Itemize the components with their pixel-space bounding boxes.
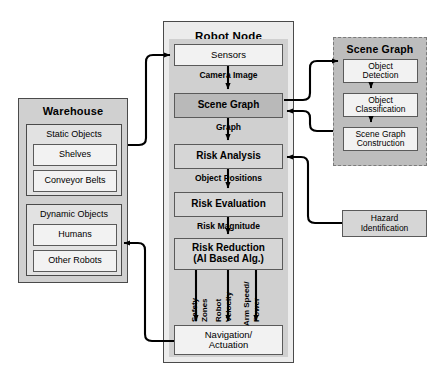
node-navigation-actuation: Navigation/ Actuation bbox=[174, 325, 283, 355]
output-label-robot-velocity-line2: Velocity bbox=[224, 292, 233, 322]
node-scene-graph-construction-label-line2: Construction bbox=[357, 139, 405, 148]
node-scene-graph-label: Scene Graph bbox=[198, 100, 260, 111]
node-scene-graph: Scene Graph bbox=[174, 93, 283, 118]
node-object-detection-label-line2: Detection bbox=[363, 71, 399, 80]
node-risk-evaluation-label: Risk Evaluation bbox=[191, 199, 265, 210]
node-risk-reduction: Risk Reduction (AI Based Alg.) bbox=[174, 238, 283, 270]
output-label-arm-speed-line1: Arm Speed/ bbox=[242, 282, 251, 326]
node-navigation-actuation-label-line2: Actuation bbox=[209, 340, 249, 350]
warehouse-title: Warehouse bbox=[19, 105, 127, 117]
output-label-arm-speed-line2: Power bbox=[252, 298, 261, 322]
output-label-robot-velocity-line1: Robot bbox=[214, 299, 223, 322]
warehouse-item-other-robots: Other Robots bbox=[33, 250, 117, 272]
node-object-classification: Object Classification bbox=[343, 93, 418, 117]
warehouse-item-other-robots-label: Other Robots bbox=[48, 256, 102, 266]
node-object-detection: Object Detection bbox=[343, 59, 418, 83]
node-risk-reduction-label-line2: (AI Based Alg.) bbox=[193, 254, 264, 265]
output-label-safety-zones-line1: Safety bbox=[190, 298, 199, 322]
node-hazard-identification-label-line2: Identification bbox=[361, 224, 409, 233]
warehouse-item-conveyor-belts-label: Conveyor Belts bbox=[44, 176, 105, 186]
node-object-classification-label-line2: Classification bbox=[355, 105, 405, 114]
node-hazard-identification: Hazard Identification bbox=[342, 210, 427, 237]
output-label-safety-zones-line2: Zones bbox=[200, 298, 209, 322]
warehouse-item-shelves: Shelves bbox=[33, 144, 117, 166]
warehouse-panel: Warehouse Static Objects Shelves Conveyo… bbox=[18, 98, 128, 283]
edge-label-graph: Graph bbox=[174, 122, 283, 132]
warehouse-item-humans: Humans bbox=[33, 224, 117, 246]
wire-hazard-to-risk-analysis bbox=[287, 157, 342, 223]
warehouse-group-static: Static Objects Shelves Conveyor Belts bbox=[26, 124, 122, 196]
node-risk-evaluation: Risk Evaluation bbox=[174, 192, 283, 217]
warehouse-group-static-header: Static Objects bbox=[27, 129, 121, 139]
edge-label-risk-magnitude: Risk Magnitude bbox=[169, 221, 288, 231]
node-scene-graph-construction: Scene Graph Construction bbox=[343, 127, 418, 151]
warehouse-item-conveyor-belts: Conveyor Belts bbox=[33, 170, 117, 192]
scene-graph-subsystem-panel: Scene Graph Object Detection Object Clas… bbox=[333, 37, 427, 166]
warehouse-group-dynamic-header: Dynamic Objects bbox=[27, 209, 121, 219]
edge-label-object-positions: Object Positions bbox=[169, 173, 288, 183]
node-risk-analysis: Risk Analysis bbox=[174, 144, 283, 169]
diagram-canvas: Warehouse Static Objects Shelves Conveyo… bbox=[0, 0, 445, 382]
warehouse-item-humans-label: Humans bbox=[58, 230, 92, 240]
node-sensors: Sensors bbox=[174, 44, 283, 66]
warehouse-group-dynamic: Dynamic Objects Humans Other Robots bbox=[26, 204, 122, 276]
scene-graph-subsystem-title: Scene Graph bbox=[334, 43, 426, 55]
edge-label-camera-image: Camera Image bbox=[174, 70, 283, 80]
warehouse-item-shelves-label: Shelves bbox=[59, 150, 91, 160]
node-risk-analysis-label: Risk Analysis bbox=[196, 151, 261, 162]
node-sensors-label: Sensors bbox=[211, 50, 246, 60]
